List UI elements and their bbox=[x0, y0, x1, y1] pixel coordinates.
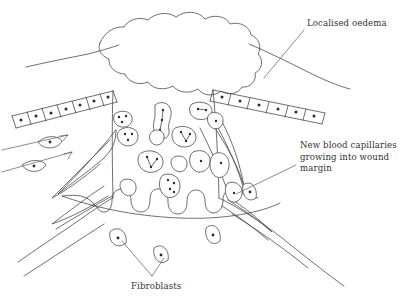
leader-line-oedema bbox=[264, 30, 304, 78]
skin-surface-left bbox=[26, 45, 119, 67]
cell-clear bbox=[149, 130, 164, 145]
fibroblast bbox=[206, 226, 221, 244]
capillary-sprouts-left bbox=[52, 130, 116, 229]
cell-polymorph bbox=[210, 153, 229, 178]
cell-polymorph bbox=[159, 174, 180, 197]
label-fibroblasts: Fibroblasts bbox=[131, 281, 181, 293]
cell-clear bbox=[171, 156, 187, 172]
skin-surface-right bbox=[249, 44, 350, 89]
label-localised-oedema: Localised oedema bbox=[307, 18, 387, 30]
oedema-blob bbox=[99, 12, 262, 95]
epidermis-left bbox=[12, 91, 117, 128]
label-new-blood-capillaries: New blood capillaries growing into wound… bbox=[300, 140, 397, 175]
cell-polymorph bbox=[207, 112, 223, 128]
epidermis-right bbox=[210, 90, 325, 124]
cell-clear bbox=[120, 179, 136, 196]
cell-polymorph bbox=[172, 126, 196, 147]
cell-polymorph bbox=[117, 128, 138, 146]
wound-healing-figure: Localised oedema New blood capillaries g… bbox=[0, 0, 417, 304]
cell-polymorph bbox=[114, 111, 133, 127]
inflammatory-cells bbox=[114, 102, 242, 202]
leader-line-capillaries bbox=[236, 165, 296, 194]
dermis-boundary-right bbox=[219, 198, 344, 286]
fibroblast bbox=[154, 246, 169, 263]
capillary-sprouts-right bbox=[200, 117, 272, 240]
cell-polymorph bbox=[138, 151, 163, 173]
cell-polymorph bbox=[190, 151, 210, 172]
fibroblast bbox=[38, 137, 62, 148]
fibroblast bbox=[243, 183, 257, 200]
fibroblast bbox=[22, 161, 46, 172]
